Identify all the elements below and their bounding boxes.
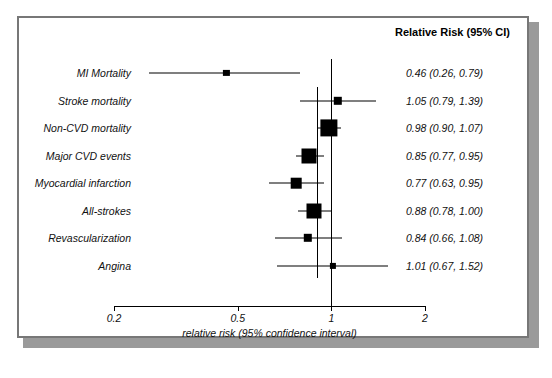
outcome-label: Myocardial infarction [35,177,131,189]
outcome-label: Angina [98,260,131,272]
x-axis-tick [331,306,332,311]
outcome-label: MI Mortality [77,67,131,79]
relative-risk-value: 0.77 (0.63, 0.95) [406,177,483,189]
forest-plot-figure: Relative Risk (95% CI) MI Mortality0.46 … [0,0,552,378]
relative-risk-value: 0.88 (0.78, 1.00) [406,205,483,217]
outcome-label: Major CVD events [46,150,131,162]
null-reference-line [331,59,332,306]
x-axis-tick-label: 1 [328,312,334,324]
relative-risk-value: 0.85 (0.77, 0.95) [406,150,483,162]
relative-risk-value: 0.46 (0.26, 0.79) [406,67,483,79]
relative-risk-value: 1.01 (0.67, 1.52) [406,260,483,272]
point-estimate-marker [223,70,229,76]
relative-risk-value: 1.05 (0.79, 1.39) [406,95,483,107]
plot-area: MI Mortality0.46 (0.26, 0.79)Stroke mort… [0,0,552,378]
x-axis-title: relative risk (95% confidence interval) [182,327,357,339]
outcome-label: Stroke mortality [58,95,131,107]
x-axis-tick-label: 0.2 [107,312,122,324]
outcome-label: Revascularization [48,232,131,244]
x-axis-tick [114,306,115,311]
point-estimate-marker [302,148,317,163]
outcome-label: Non-CVD mortality [43,122,131,134]
x-axis-tick-label: 0.5 [230,312,245,324]
point-estimate-marker [330,262,336,268]
x-axis-line [114,306,425,307]
point-estimate-marker [304,234,312,242]
point-estimate-marker [334,96,342,104]
relative-risk-value: 0.98 (0.90, 1.07) [406,122,483,134]
point-estimate-marker [320,119,337,136]
point-estimate-marker [307,203,322,218]
x-axis-tick [425,306,426,311]
relative-risk-value: 0.84 (0.66, 1.08) [406,232,483,244]
outcome-label: All-strokes [82,205,131,217]
x-axis-tick-label: 2 [422,312,428,324]
point-estimate-marker [291,178,302,189]
x-axis-tick [238,306,239,311]
